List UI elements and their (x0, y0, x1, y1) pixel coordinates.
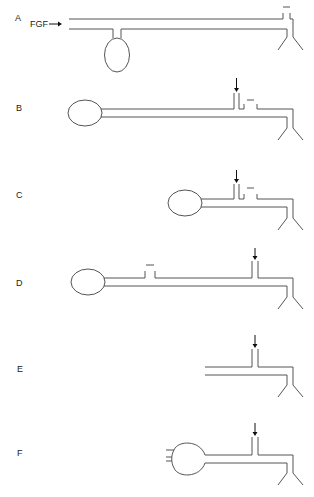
panel-a-circuit (49, 7, 303, 72)
panel-d-circuit (71, 248, 303, 309)
reservoir-bag-icon (168, 190, 202, 216)
reservoir-bag-icon (68, 100, 102, 126)
fgf-arrow-icon (234, 170, 239, 183)
panel-e-circuit (205, 335, 303, 397)
mapleson-diagram (0, 0, 314, 497)
fgf-arrow-icon (253, 335, 258, 348)
fgf-arrow-icon (253, 423, 258, 436)
reservoir-bag-icon (105, 38, 130, 72)
reservoir-bag-icon (71, 269, 105, 295)
panel-f-circuit (166, 423, 303, 485)
panel-c-circuit (168, 170, 303, 230)
fgf-arrow-icon (49, 22, 62, 27)
fgf-arrow-icon (234, 78, 239, 92)
fgf-arrow-icon (253, 248, 258, 260)
reservoir-bag-icon (166, 443, 205, 455)
panel-b-circuit (68, 78, 303, 140)
